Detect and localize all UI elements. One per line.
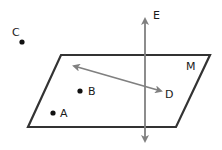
label-e: E [153,9,160,22]
diagram-svg: C B A D E M [0,0,222,150]
point-c [19,39,24,44]
label-a: A [60,107,68,120]
point-b [77,88,82,93]
label-m: M [186,60,196,73]
geometry-diagram: C B A D E M [0,0,222,150]
label-d: D [165,88,173,101]
label-c: C [12,26,20,39]
point-a [50,110,55,115]
label-b: B [88,85,96,98]
plane-m [28,55,210,127]
